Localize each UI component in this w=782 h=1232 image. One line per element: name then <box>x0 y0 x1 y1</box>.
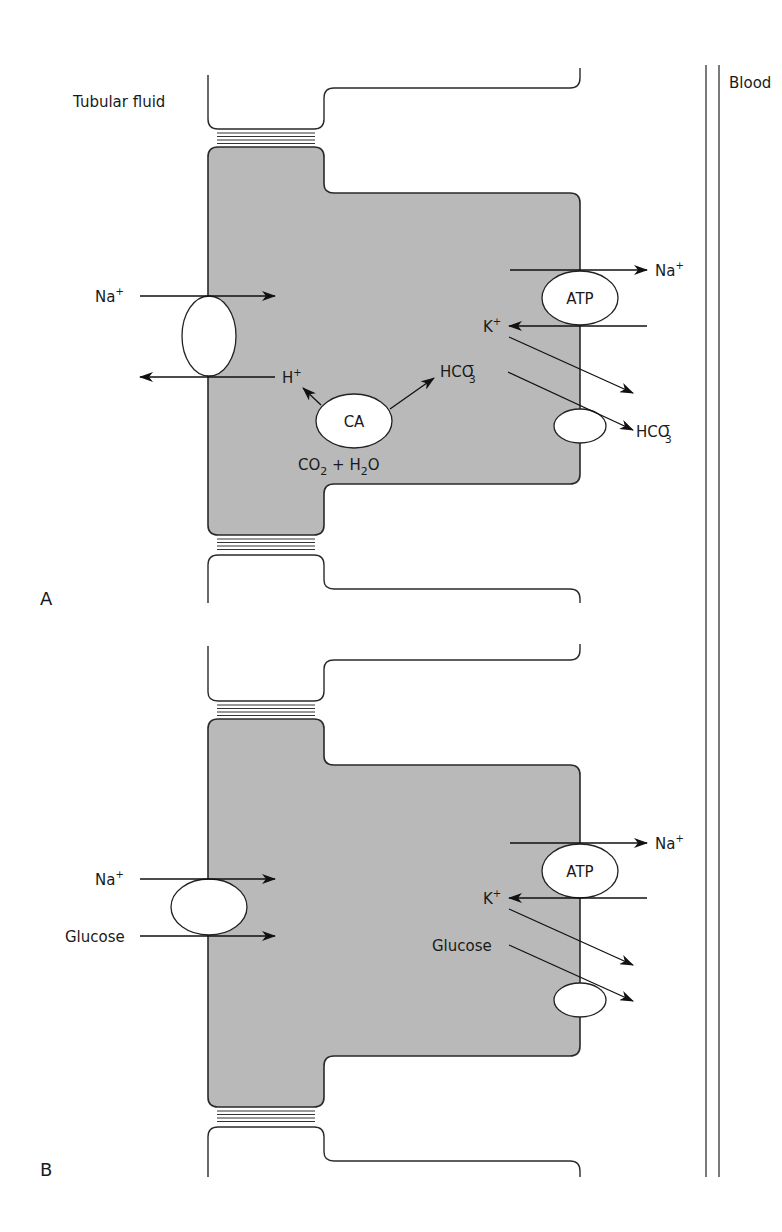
na-h-exchanger <box>182 296 236 376</box>
panel-b: Na+ Glucose ATP Na+ K+ Glucose B <box>40 644 684 1180</box>
panel-b-letter: B <box>40 1159 52 1180</box>
na-in-label: Na+ <box>95 286 124 306</box>
atp-label: ATP <box>566 290 593 308</box>
atp-label: ATP <box>566 863 593 881</box>
tubular-fluid-label: Tubular fluid <box>72 93 165 111</box>
blood-label: Blood <box>729 74 771 92</box>
glucose-cell-label: Glucose <box>432 937 492 955</box>
na-out-label: Na+ <box>655 260 684 280</box>
tight-junction <box>217 133 315 144</box>
na-glucose-cotransporter <box>171 879 247 935</box>
neighbor-cell-top-b <box>208 644 580 701</box>
neighbor-cell-bottom-b <box>208 1127 580 1177</box>
blood-vessel-wall <box>706 65 719 1177</box>
tight-junction <box>217 705 315 716</box>
glucose-in-label: Glucose <box>65 928 125 946</box>
epithelial-cell-b <box>208 719 580 1107</box>
panel-a: Na+ H+ CA CO2 + H2O HCO−3 ATP Na+ K+ HCO… <box>40 68 684 609</box>
epithelial-transport-diagram: Blood Tubular fluid Na+ H+ CA <box>0 0 782 1232</box>
neighbor-cell-bottom-a <box>208 555 580 603</box>
hco3-blood-label: HCO−3 <box>636 419 672 446</box>
tight-junction <box>217 539 315 550</box>
glucose-transporter <box>554 983 606 1017</box>
tight-junction <box>217 1111 315 1122</box>
neighbor-cell-top-a <box>208 68 580 129</box>
panel-a-letter: A <box>40 588 53 609</box>
epithelial-cell-a <box>208 147 580 535</box>
na-in-label: Na+ <box>95 869 124 889</box>
na-out-label: Na+ <box>655 833 684 853</box>
ca-label: CA <box>344 413 365 431</box>
